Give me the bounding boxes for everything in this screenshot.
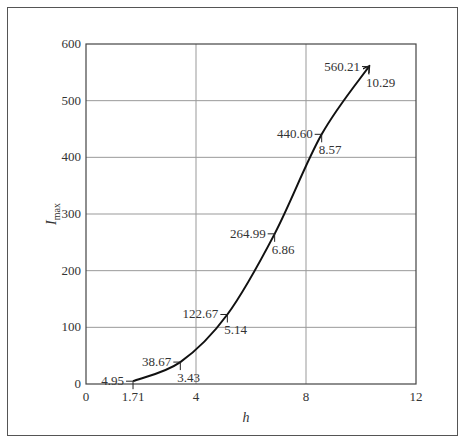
y-tick-label: 400 [62,149,82,164]
y-tick-label: 200 [62,263,82,278]
point-annotation: 4.95 [101,373,133,389]
grid-lines [86,44,416,384]
chart: 0100200300400500600 048121.71 4.9538.673… [0,0,463,441]
point-annotation: 440.608.57 [277,126,342,157]
annotation-y-value: 560.21 [324,59,360,74]
x-tick-label: 1.71 [122,389,145,404]
x-tick-label: 4 [193,389,200,404]
y-axis-label: Imax [44,203,62,226]
point-annotations: 4.9538.673.43122.675.14264.996.86440.608… [101,59,395,390]
y-tick-label: 600 [62,36,82,51]
annotation-x-value: 3.43 [177,370,200,385]
annotation-y-value: 264.99 [230,226,266,241]
annotation-x-value: 5.14 [224,322,247,337]
data-curve [133,67,369,382]
point-annotation: 122.675.14 [183,306,248,337]
annotation-x-value: 6.86 [272,242,295,257]
x-axis-label: h [243,410,250,425]
x-tick-label: 8 [303,389,310,404]
y-axis-ticks: 0100200300400500600 [62,36,82,391]
y-tick-label: 100 [62,319,82,334]
point-annotation: 264.996.86 [230,226,295,257]
annotation-y-value: 38.67 [142,354,172,369]
point-annotation: 560.2110.29 [324,59,395,90]
y-tick-label: 500 [62,93,82,108]
point-annotation: 38.673.43 [142,354,200,385]
annotation-x-value: 8.57 [319,142,342,157]
x-axis-ticks: 048121.71 [83,389,423,404]
annotation-y-value: 122.67 [183,306,219,321]
annotation-y-value: 4.95 [101,373,124,388]
x-tick-label: 0 [83,389,90,404]
annotation-y-value: 440.60 [277,126,313,141]
y-tick-label: 300 [62,206,82,221]
x-tick-label: 12 [410,389,423,404]
y-tick-label: 0 [75,376,82,391]
annotation-x-value: 10.29 [366,75,395,90]
